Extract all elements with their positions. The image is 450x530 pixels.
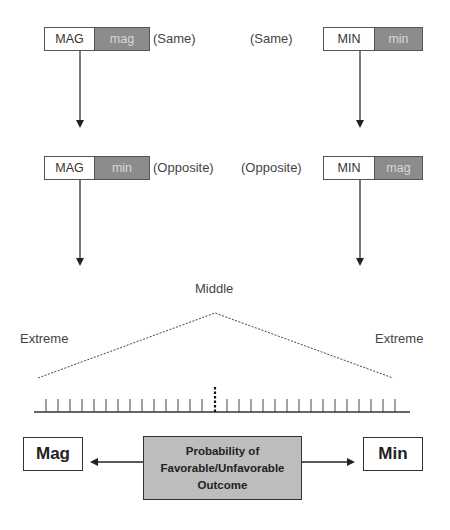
center-line-2: Favorable/Unfavorable [161, 460, 285, 477]
center-line-1: Probability of [161, 443, 285, 460]
dashed-peak-line [38, 313, 393, 378]
probability-outcome-box: Probability of Favorable/Unfavorable Out… [143, 436, 302, 500]
center-line-3: Outcome [161, 477, 285, 494]
ruler-ticks [46, 399, 395, 412]
mag-box: Mag [23, 437, 83, 471]
min-box: Min [363, 437, 423, 471]
